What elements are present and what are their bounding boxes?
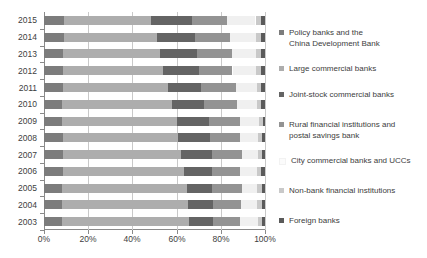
bar-segment[interactable] — [64, 16, 152, 25]
legend-item[interactable]: City commercial banks and UCCs — [279, 156, 411, 167]
bar-segment[interactable] — [177, 117, 209, 126]
bar-segment[interactable] — [44, 167, 63, 176]
bar-segment[interactable] — [212, 150, 241, 159]
bar-segment[interactable] — [209, 117, 240, 126]
bar-2011[interactable] — [44, 83, 265, 92]
bar-segment[interactable] — [242, 150, 259, 159]
bar-2003[interactable] — [44, 217, 265, 226]
bar-segment[interactable] — [261, 66, 265, 75]
bar-segment[interactable] — [240, 167, 257, 176]
bar-segment[interactable] — [195, 33, 229, 42]
bar-segment[interactable] — [236, 83, 257, 92]
bar-segment[interactable] — [44, 83, 63, 92]
bar-segment[interactable] — [212, 167, 241, 176]
bar-segment[interactable] — [197, 49, 231, 58]
bar-segment[interactable] — [62, 217, 189, 226]
bar-2008[interactable] — [44, 133, 265, 142]
bar-segment[interactable] — [44, 66, 63, 75]
bar-segment[interactable] — [44, 33, 64, 42]
bar-segment[interactable] — [192, 16, 227, 25]
bar-segment[interactable] — [213, 217, 240, 226]
legend-item[interactable]: Policy banks and the China Development B… — [279, 28, 380, 49]
bar-segment[interactable] — [44, 100, 62, 109]
bar-segment[interactable] — [44, 117, 62, 126]
bar-segment[interactable] — [188, 200, 213, 209]
bar-segment[interactable] — [63, 49, 160, 58]
bar-segment[interactable] — [44, 200, 62, 209]
bar-segment[interactable] — [62, 200, 188, 209]
bar-segment[interactable] — [210, 133, 240, 142]
bar-segment[interactable] — [63, 150, 181, 159]
bar-segment[interactable] — [232, 49, 256, 58]
bar-segment[interactable] — [44, 184, 62, 193]
bar-segment[interactable] — [44, 49, 63, 58]
legend-item[interactable]: Joint-stock commercial banks — [279, 90, 394, 101]
bar-segment[interactable] — [261, 167, 265, 176]
bar-segment[interactable] — [44, 133, 63, 142]
bar-segment[interactable] — [151, 16, 192, 25]
bar-segment[interactable] — [163, 66, 199, 75]
bar-segment[interactable] — [201, 83, 236, 92]
bar-segment[interactable] — [168, 83, 201, 92]
bar-segment[interactable] — [44, 150, 63, 159]
bar-segment[interactable] — [187, 184, 213, 193]
bar-segment[interactable] — [178, 133, 210, 142]
legend-item[interactable]: Large commercial banks — [279, 64, 376, 75]
bar-segment[interactable] — [240, 217, 258, 226]
bar-segment[interactable] — [199, 66, 232, 75]
bar-segment[interactable] — [262, 217, 265, 226]
bar-segment[interactable] — [172, 100, 204, 109]
bar-segment[interactable] — [184, 167, 211, 176]
legend-item[interactable]: Rural financial institutions and postal … — [279, 120, 395, 141]
bar-segment[interactable] — [63, 133, 178, 142]
bar-segment[interactable] — [262, 150, 265, 159]
legend-item[interactable]: Foreign banks — [279, 216, 340, 227]
bar-2009[interactable] — [44, 117, 265, 126]
y-axis-tick — [40, 46, 44, 47]
bar-segment[interactable] — [62, 100, 171, 109]
bar-segment[interactable] — [44, 16, 64, 25]
bar-segment[interactable] — [63, 83, 168, 92]
bar-segment[interactable] — [261, 49, 265, 58]
bar-segment[interactable] — [160, 49, 197, 58]
bar-2006[interactable] — [44, 167, 265, 176]
bar-segment[interactable] — [261, 83, 265, 92]
bar-segment[interactable] — [262, 184, 265, 193]
bar-segment[interactable] — [189, 217, 213, 226]
bar-2012[interactable] — [44, 66, 265, 75]
bar-segment[interactable] — [64, 33, 157, 42]
bar-segment[interactable] — [213, 200, 241, 209]
bar-segment[interactable] — [212, 184, 242, 193]
legend-item[interactable]: Non-bank financial institutions — [279, 186, 395, 197]
bar-segment[interactable] — [233, 66, 257, 75]
bar-2007[interactable] — [44, 150, 265, 159]
bar-segment[interactable] — [237, 100, 257, 109]
bar-segment[interactable] — [261, 33, 265, 42]
bar-2004[interactable] — [44, 200, 265, 209]
bar-2015[interactable] — [44, 16, 265, 25]
bar-2005[interactable] — [44, 184, 265, 193]
bar-segment[interactable] — [262, 133, 265, 142]
bar-segment[interactable] — [230, 33, 256, 42]
bar-segment[interactable] — [227, 16, 255, 25]
bar-segment[interactable] — [62, 117, 176, 126]
bar-segment[interactable] — [263, 117, 265, 126]
bar-segment[interactable] — [63, 66, 164, 75]
legend-swatch-icon — [279, 30, 284, 35]
bar-segment[interactable] — [157, 33, 195, 42]
bar-segment[interactable] — [44, 217, 62, 226]
bar-segment[interactable] — [240, 117, 258, 126]
bar-segment[interactable] — [62, 184, 186, 193]
bar-segment[interactable] — [63, 167, 185, 176]
bar-segment[interactable] — [241, 200, 258, 209]
bar-segment[interactable] — [262, 200, 265, 209]
bar-2010[interactable] — [44, 100, 265, 109]
bar-segment[interactable] — [181, 150, 212, 159]
bar-2014[interactable] — [44, 33, 265, 42]
bar-segment[interactable] — [204, 100, 237, 109]
bar-segment[interactable] — [261, 100, 265, 109]
bar-2013[interactable] — [44, 49, 265, 58]
bar-segment[interactable] — [240, 133, 258, 142]
bar-segment[interactable] — [261, 16, 265, 25]
bar-segment[interactable] — [242, 184, 257, 193]
